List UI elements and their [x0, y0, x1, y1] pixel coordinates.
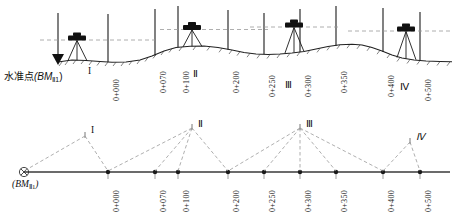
sight-rays-station-4 — [383, 142, 420, 171]
instrument-station-4 — [397, 24, 416, 60]
instrument-station-3 — [285, 20, 304, 54]
leveling-survey-figure: 水准点(BMⅡ1) I Ⅱ Ⅲ Ⅳ 0+000 0+070 0+100 0+20… — [0, 0, 455, 224]
chainage-label-bottom-5: 0+300 — [304, 190, 313, 212]
benchmark-caption-bottom: (BMⅡ1) — [12, 179, 38, 189]
benchmark-subscript-top: Ⅱ1 — [52, 76, 59, 83]
station-label-top-1: I — [88, 66, 91, 76]
station-label-top-3: Ⅲ — [285, 79, 292, 90]
line-of-sight-dashed — [40, 27, 452, 40]
station-label-top-2: Ⅱ — [193, 68, 198, 79]
chainage-label-top-6: 0+350 — [340, 71, 349, 93]
chainage-label-top-3: 0+200 — [232, 71, 241, 93]
chainage-label-bottom-2: 0+100 — [182, 190, 191, 212]
station-label-bottom-1: I — [91, 125, 94, 135]
bottom-plan-view — [19, 124, 450, 179]
chainage-label-top-1: 0+070 — [159, 71, 168, 93]
chainage-label-bottom-3: 0+200 — [232, 190, 241, 212]
sight-rays-station-3 — [228, 128, 383, 171]
benchmark-caption-top: 水准点(BMⅡ1) — [4, 68, 62, 83]
top-profile-view — [40, 6, 452, 66]
benchmark-marker-top — [52, 13, 64, 65]
leveling-staffs — [108, 6, 420, 62]
benchmark-paren-open-bottom: (BM — [12, 179, 29, 189]
chainage-label-top-7: 0+400 — [387, 75, 396, 97]
ground-surface-line — [58, 44, 452, 62]
instrument-station-2 — [183, 22, 202, 47]
chainage-tick-stubs — [108, 174, 420, 179]
benchmark-paren-open: (BM — [34, 71, 52, 82]
chainage-label-bottom-1: 0+070 — [159, 190, 168, 212]
station-position-ticks — [85, 124, 410, 144]
chainage-label-top-8: 0+500 — [424, 79, 433, 101]
chainage-label-bottom-6: 0+350 — [340, 190, 349, 212]
sight-rays-station-2 — [108, 128, 228, 171]
chainage-label-top-0: 0+000 — [112, 79, 121, 101]
chainage-label-top-5: 0+300 — [304, 75, 313, 97]
chainage-label-top-2: 0+100 — [182, 71, 191, 93]
station-label-bottom-4: Ⅳ — [416, 131, 425, 142]
chainage-label-bottom-0: 0+000 — [112, 190, 121, 212]
station-label-top-4: Ⅳ — [400, 81, 409, 92]
sight-rays-station-1 — [24, 136, 108, 171]
instrument-station-1 — [68, 33, 87, 61]
benchmark-paren-close: ) — [59, 71, 62, 82]
station-label-bottom-2: Ⅱ — [198, 118, 203, 129]
chainage-label-bottom-4: 0+250 — [268, 190, 277, 212]
chainage-label-bottom-8: 0+500 — [424, 190, 433, 212]
chainage-label-bottom-7: 0+400 — [387, 190, 396, 212]
benchmark-paren-close-bottom: ) — [35, 179, 38, 189]
benchmark-subscript-bottom: Ⅱ1 — [29, 183, 35, 190]
station-label-bottom-3: Ⅲ — [306, 118, 313, 129]
chainage-label-top-4: 0+250 — [268, 75, 277, 97]
benchmark-caption-cn: 水准点 — [4, 71, 34, 82]
